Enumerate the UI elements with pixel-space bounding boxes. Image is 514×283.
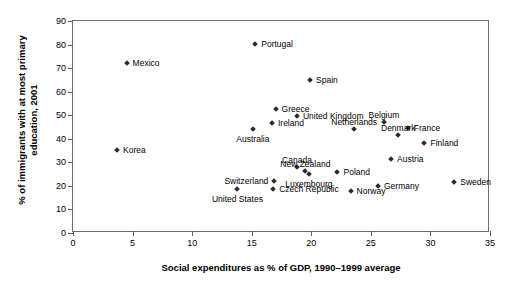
y-axis-tick [68,209,73,210]
data-point-marker [235,186,241,192]
data-point-label: United States [212,195,263,204]
y-axis-tick-label: 90 [56,17,66,26]
data-point-label: Germany [384,182,419,191]
data-point-label: Czech Republic [279,185,339,194]
x-axis-tick-label: 0 [70,239,75,248]
data-point-label: Sweden [460,178,491,187]
x-axis-tick-label: 5 [130,239,135,248]
data-point-marker [395,132,401,138]
data-point-label: Spain [316,76,338,85]
data-point-label: France [414,124,440,133]
y-axis-tick-label: 20 [56,182,66,191]
data-point-marker [270,186,276,192]
x-axis-tick [490,231,491,236]
y-axis-tick [68,162,73,163]
y-axis-tick-label: 70 [56,64,66,73]
y-axis-tick-label: 30 [56,158,66,167]
data-point-marker [351,126,357,132]
y-axis-title-line1: % of immigrants with at most primary [16,35,27,204]
data-point-marker [422,140,428,146]
data-point-marker [388,156,394,162]
data-point-marker [348,188,354,194]
x-axis-tick [133,231,134,236]
data-point-marker [272,178,278,184]
y-axis-tick-label: 60 [56,88,66,97]
y-axis-tick-label: 80 [56,41,66,50]
data-point-marker [269,120,275,126]
data-point-label: Mexico [133,59,160,68]
data-point-label: Finland [430,139,458,148]
y-axis-title: % of immigrants with at most primary edu… [16,2,40,238]
data-point-label: Denmark [381,124,415,133]
y-axis-tick [68,45,73,46]
x-axis-tick [192,231,193,236]
data-point-marker [124,61,130,67]
data-point-marker [114,147,120,153]
y-axis-tick-label: 50 [56,111,66,120]
y-axis-tick-label: 10 [56,205,66,214]
y-axis-tick [68,68,73,69]
data-point-marker [252,41,258,47]
y-axis-tick [68,21,73,22]
x-axis-tick [430,231,431,236]
data-point-label: Australia [236,135,269,144]
x-axis-tick-label: 25 [366,239,376,248]
data-point-marker [250,126,256,132]
x-axis-tick [371,231,372,236]
x-axis-tick-label: 10 [187,239,197,248]
x-axis-tick-label: 15 [247,239,257,248]
x-axis-tick-label: 20 [306,239,316,248]
y-axis-tick [68,186,73,187]
data-point-label: New Zealand [280,160,330,169]
x-axis-title: Social expenditures as % of GDP, 1990–19… [72,262,490,273]
x-axis-tick [252,231,253,236]
y-axis-tick-label: 0 [61,229,66,238]
x-axis-tick-label: 30 [425,239,435,248]
x-axis-tick [73,231,74,236]
data-point-label: Switzerland [224,177,268,186]
data-point-label: Austria [397,155,423,164]
data-point-label: Korea [123,146,146,155]
data-point-marker [306,171,312,177]
data-point-label: Poland [343,168,369,177]
x-axis-tick [311,231,312,236]
y-axis-tick-label: 40 [56,135,66,144]
data-point-marker [335,169,341,175]
data-point-marker [273,106,279,112]
data-point-label: Ireland [278,119,304,128]
data-point-label: Belgium [369,111,400,120]
data-point-label: Portugal [261,40,293,49]
data-point-label: Norway [357,187,386,196]
data-point-marker [307,77,313,83]
y-axis-tick [68,139,73,140]
plot-area: 010203040506070809005101520253035MexicoK… [72,20,489,232]
scatter-chart-figure: % of immigrants with at most primary edu… [0,0,514,283]
x-axis-tick-label: 35 [485,239,495,248]
y-axis-title-line2: education, 2001 [28,84,39,155]
data-point-marker [451,179,457,185]
y-axis-tick [68,115,73,116]
y-axis-tick [68,92,73,93]
